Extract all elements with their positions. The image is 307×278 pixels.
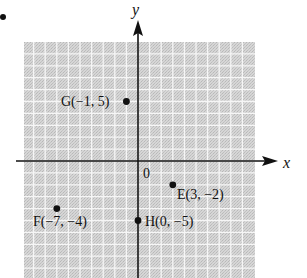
point-e-dot-icon bbox=[169, 181, 176, 188]
coordinate-plane bbox=[0, 0, 307, 278]
point-label-h: H(0, −5) bbox=[145, 215, 193, 229]
point-label-f: F(−7, −4) bbox=[33, 215, 87, 229]
point-f-dot-icon bbox=[53, 205, 60, 212]
x-axis-label: x bbox=[283, 155, 290, 171]
y-axis-label: y bbox=[132, 2, 139, 18]
point-h-dot-icon bbox=[135, 217, 142, 224]
point-label-g: G(−1, 5) bbox=[61, 95, 109, 109]
point-g-dot-icon bbox=[123, 98, 130, 105]
point-label-e: E(3, −2) bbox=[177, 188, 224, 202]
origin-label: 0 bbox=[143, 167, 150, 181]
